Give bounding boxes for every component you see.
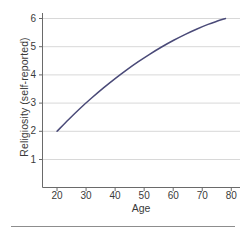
x-tick-label: 30	[74, 191, 98, 201]
x-tick-label: 70	[190, 191, 214, 201]
bottom-divider	[11, 226, 235, 227]
y-axis-title: Religiosity (self-reported)	[18, 2, 36, 192]
x-tick-label: 50	[132, 191, 156, 201]
chart-figure: 123456 20304050607080 Religiosity (self-…	[0, 0, 249, 235]
x-tick-label: 20	[45, 191, 69, 201]
y-tick-marks-group	[39, 19, 43, 160]
x-tick-label: 80	[219, 191, 243, 201]
x-axis-title: Age	[42, 202, 240, 214]
x-tick-label: 60	[161, 191, 185, 201]
gridlines-group	[43, 19, 241, 160]
x-tick-label: 40	[103, 191, 127, 201]
